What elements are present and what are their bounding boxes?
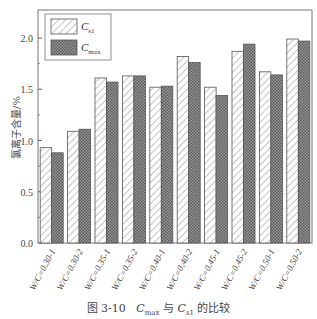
legend-swatch-cs1	[51, 19, 77, 34]
x-tick-label: W/C=0.40-1	[137, 247, 167, 292]
bar-cmax	[107, 82, 119, 243]
bar-cmax	[134, 76, 146, 243]
x-tick-label: W/C=0.50-2	[274, 247, 304, 292]
bar-cs1	[150, 87, 162, 243]
bar-cmax	[298, 41, 310, 243]
legend-swatch-cmax	[51, 40, 77, 55]
y-tick-label: 0.0	[21, 238, 34, 249]
x-tick-label: W/C=0.35-1	[82, 247, 112, 292]
x-tick-label: W/C=0.40-2	[164, 247, 194, 292]
bar-cs1	[259, 72, 271, 243]
bar-cmax	[244, 44, 256, 243]
caption-prefix: 图 3-10	[87, 302, 126, 315]
bar-cs1	[95, 78, 107, 243]
x-tick-label: W/C=0.35-2	[110, 247, 140, 292]
bar-cs1	[68, 131, 80, 243]
y-tick-label: 0.5	[21, 187, 34, 198]
x-tick-label: W/C=0.45-2	[219, 247, 249, 292]
y-axis-label: 氯离子含量/%	[8, 83, 23, 173]
bar-cs1	[205, 87, 217, 243]
x-tick-label: W/C=0.30-1	[27, 247, 57, 292]
bar-cmax	[271, 75, 283, 243]
bar-cmax	[216, 95, 228, 243]
bar-cmax	[79, 129, 91, 243]
bar-cmax	[52, 153, 64, 243]
y-tick-label: 2.0	[21, 33, 34, 44]
x-tick-label: W/C=0.30-2	[55, 247, 85, 292]
x-tick-label: W/C=0.45-1	[192, 247, 222, 292]
bar-cmax	[189, 63, 201, 243]
bar-cs1	[177, 56, 189, 243]
bar-cs1	[122, 76, 133, 243]
figure-caption: 图 3-10 Cmax 与 Cs1 的比较	[0, 299, 317, 317]
bar-cs1	[232, 51, 244, 243]
bar-cmax	[161, 86, 173, 243]
bar-chart: 0.00.51.01.52.0W/C=0.30-1W/C=0.30-2W/C=0…	[0, 0, 317, 300]
x-tick-label: W/C=0.50-1	[247, 247, 277, 292]
bar-cs1	[287, 39, 299, 243]
bar-cs1	[40, 148, 52, 243]
plot-area: 0.00.51.01.52.0W/C=0.30-1W/C=0.30-2W/C=0…	[21, 10, 313, 292]
